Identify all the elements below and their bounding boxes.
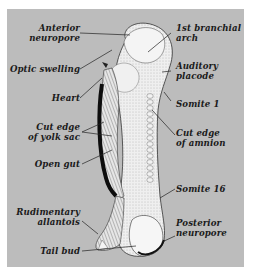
label-cut-edge-yolk-sac: Cut edge of yolk sac xyxy=(28,122,80,142)
allantois xyxy=(96,196,124,251)
label-open-gut: Open gut xyxy=(35,159,80,169)
label-auditory-placode: Auditory placode xyxy=(176,61,218,81)
label-somite-1: Somite 1 xyxy=(176,99,220,109)
label-posterior-neuropore: Posterior neuropore xyxy=(176,218,227,238)
label-tail-bud: Tail bud xyxy=(40,246,80,256)
label-somite-16: Somite 16 xyxy=(176,184,226,194)
label-first-branchial-arch: 1st branchial arch xyxy=(176,23,241,43)
label-anterior-neuropore: Anterior neuropore xyxy=(29,23,80,43)
label-cut-edge-amnion: Cut edge of amnion xyxy=(176,128,225,148)
label-optic-swelling: Optic swelling xyxy=(10,64,80,74)
label-heart: Heart xyxy=(52,93,80,103)
label-rudimentary-allantois: Rudimentary allantois xyxy=(16,207,80,227)
